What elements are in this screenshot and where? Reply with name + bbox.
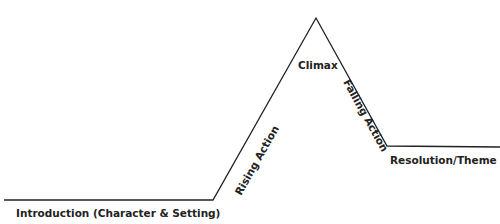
climax-label: Climax: [298, 59, 338, 71]
resolution-label: Resolution/Theme: [390, 154, 497, 166]
falling-action-label: Falling Action: [341, 77, 391, 153]
plot-diagram: Introduction (Character & Setting) Risin…: [0, 0, 500, 224]
introduction-label: Introduction (Character & Setting): [16, 207, 220, 219]
rising-action-label: Rising Action: [232, 123, 281, 197]
